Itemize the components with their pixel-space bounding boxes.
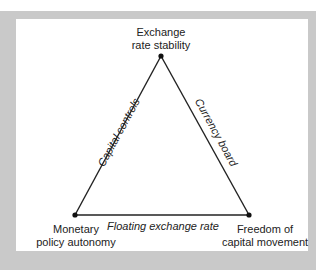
- vertex-dot-bottom-left: [72, 212, 77, 217]
- vertex-dot-top: [158, 53, 163, 58]
- edge-right-line: [161, 56, 249, 215]
- vertex-label-top-line2: rate stability: [111, 39, 211, 52]
- vertex-label-bottom-left-line2: policy autonomy: [24, 236, 128, 249]
- vertex-label-bottom-right-line1: Freedom of: [210, 223, 320, 236]
- edge-label-bottom: Floating exchange rate: [107, 220, 217, 233]
- vertex-label-bottom-right: Freedom of capital movement: [210, 223, 320, 249]
- vertex-label-top-line1: Exchange: [111, 26, 211, 39]
- vertex-dot-bottom-right: [246, 212, 251, 217]
- vertex-label-top: Exchange rate stability: [111, 26, 211, 52]
- vertex-label-bottom-right-line2: capital movement: [210, 236, 320, 249]
